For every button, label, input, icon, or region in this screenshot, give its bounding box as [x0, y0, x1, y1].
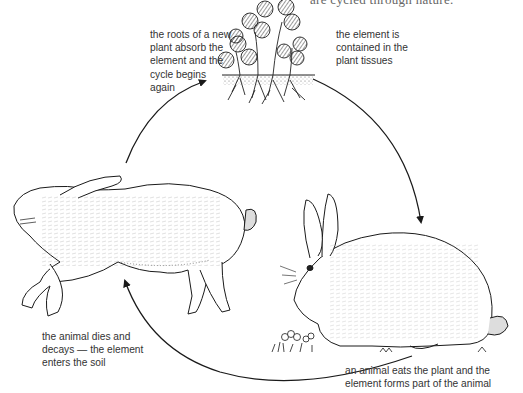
caption-herbivore: an animal eats the plant and the element…	[345, 364, 491, 390]
caption-decay: the animal dies and decays — the element…	[42, 330, 143, 370]
dead-rabbit-icon	[14, 176, 256, 316]
caption-uptake: the roots of a new plant absorb the elem…	[150, 28, 231, 94]
rabbit-icon	[272, 194, 508, 352]
clover-plants-icon	[218, 0, 315, 104]
caption-plant: the element is contained in the plant ti…	[336, 28, 408, 68]
